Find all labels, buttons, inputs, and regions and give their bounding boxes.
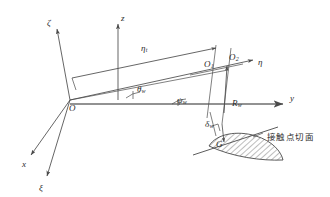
axis-label-z: z xyxy=(121,14,125,23)
measure-label-psi-w: ψw xyxy=(177,96,187,105)
point-label-G: G xyxy=(216,140,223,149)
axis-line-xi xyxy=(47,100,70,176)
wheel-rail-contact-diagram: z ζ η y x ξ O O1 O2 G ηt θw ψw Rw δw 接触点… xyxy=(0,0,330,197)
axis-line-x xyxy=(31,100,70,155)
axis-label-y: y xyxy=(290,94,294,103)
annotation-tangent-plane: 接触点切面 xyxy=(267,133,314,142)
point-label-O: O xyxy=(69,104,76,113)
construction-line-O-to-O1 xyxy=(70,70,228,100)
axis-label-eta: η xyxy=(258,58,262,67)
point-label-O2: O2 xyxy=(229,53,239,62)
radius-arrow-R-w xyxy=(224,66,227,113)
cross-line-O1-O2 xyxy=(190,64,243,75)
axis-label-zeta: ζ xyxy=(47,19,51,28)
axis-label-xi: ξ xyxy=(39,184,43,193)
dimension-tick-left xyxy=(72,78,76,90)
measure-label-theta-w: θw xyxy=(137,85,146,94)
point-label-O1: O1 xyxy=(204,60,214,69)
diagram-canvas xyxy=(0,0,330,197)
axis-label-x: x xyxy=(22,160,26,169)
strut-O1-vertical xyxy=(207,45,216,118)
measure-label-R-w: Rw xyxy=(232,99,242,108)
measure-label-eta-t: ηt xyxy=(141,44,147,53)
measure-label-delta-w: δw xyxy=(205,120,213,129)
axis-line-zeta xyxy=(57,29,70,100)
